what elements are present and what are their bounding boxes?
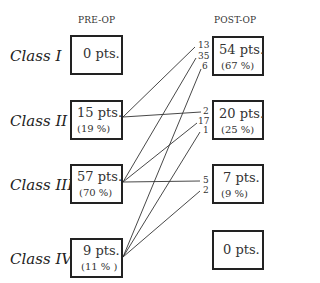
pre-pct: (19 %) [77,123,110,134]
count-ii-to-i: 13 [198,40,209,50]
pre-pct: (70 %) [79,187,112,198]
pre-pts: 9 pts. [83,243,120,258]
post-pts: 54 pts. [219,42,264,57]
line-iii-to-iii [123,181,200,182]
count-iv-to-i: 6 [202,61,208,71]
count-iv-to-ii: 1 [203,125,209,135]
count-ii-to-ii: 2 [203,106,209,116]
pre-box-class-iv: 9 pts. (11 % ) [70,238,123,278]
pre-box-class-iii: 57 pts. (70 %) [70,164,123,204]
count-iii-to-i: 35 [198,51,209,61]
line-iv-to-iii [123,191,200,257]
pre-pts: 57 pts. [77,169,122,184]
post-pts: 0 pts. [223,242,260,257]
post-pts: 20 pts. [219,106,264,121]
post-pct: (25 %) [221,124,254,135]
post-box-class-iv: 0 pts. [212,230,264,270]
post-pts: 7 pts. [223,170,260,185]
post-box-class-iii: 7 pts. (9 %) [212,164,264,204]
pre-pct: (11 % ) [81,261,117,272]
post-pct: (9 %) [221,188,248,199]
line-iii-to-ii [123,123,197,182]
post-pct: (67 %) [221,60,254,71]
post-box-class-ii: 20 pts. (25 %) [212,100,264,140]
post-box-class-i: 54 pts. (67 %) [212,36,264,76]
pre-box-class-i: 0 pts. [70,35,123,75]
pre-box-class-ii: 15 pts. (19 %) [70,100,123,140]
pre-pts: 0 pts. [83,46,120,61]
count-iii-to-iii: 5 [203,175,209,185]
pre-pts: 15 pts. [77,105,122,120]
line-iii-to-i [123,58,196,182]
line-ii-to-i [123,47,195,117]
count-iv-to-iii: 2 [203,185,209,195]
